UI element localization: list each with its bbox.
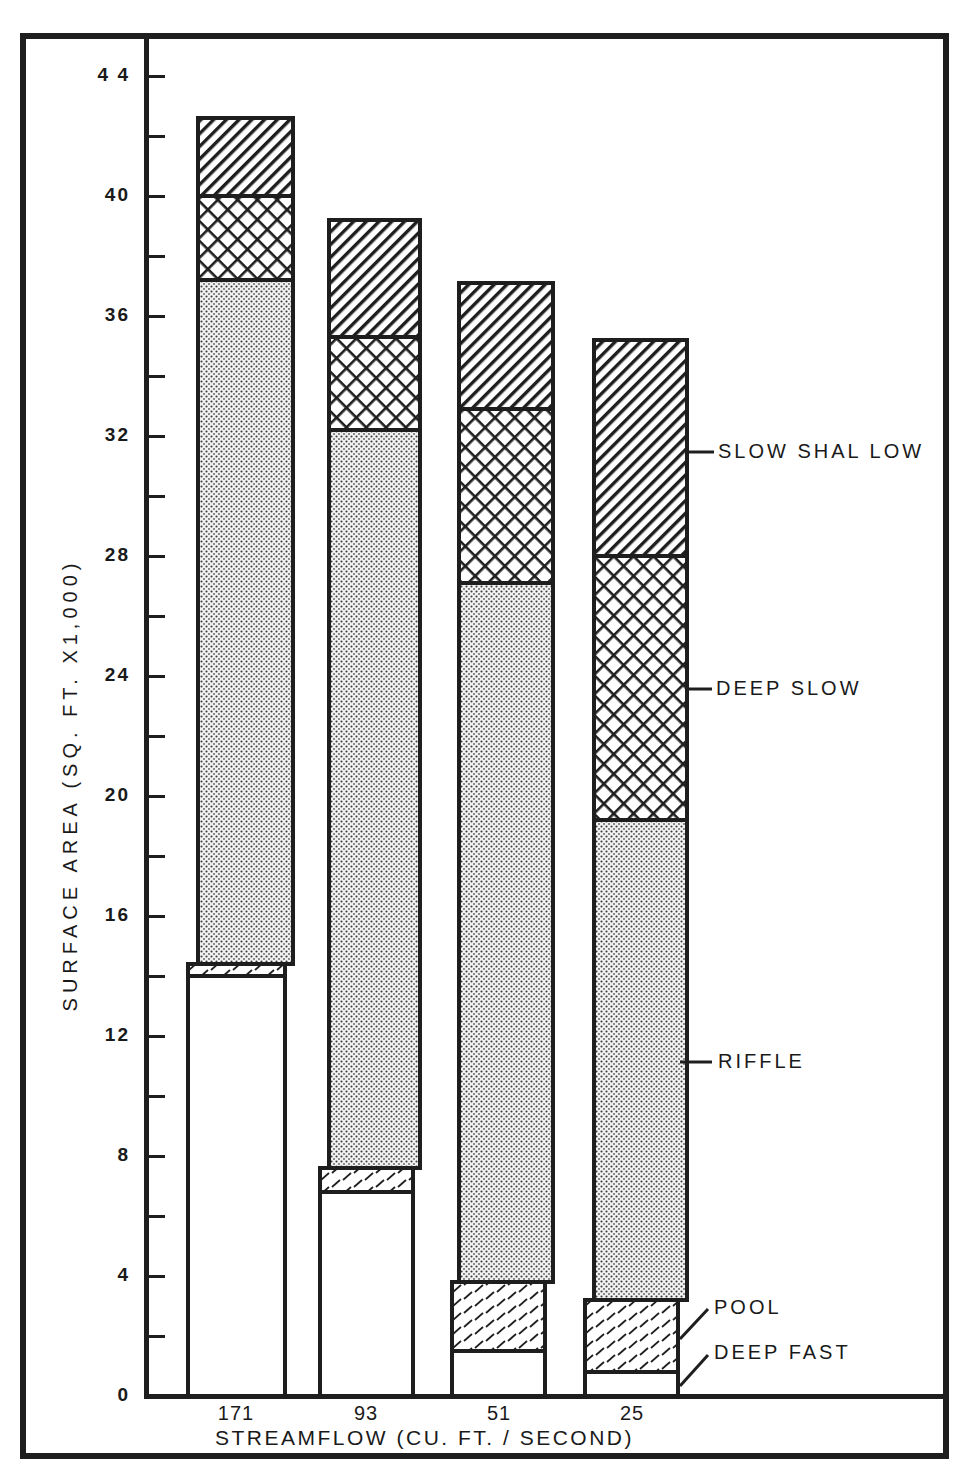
bar-stack-171 [188,118,293,1396]
stacked-bars [0,0,972,1481]
bar-stack-51 [452,283,553,1396]
x-tick-label: 171 [206,1402,266,1425]
legend-slow-shallow: SLOW SHAL LOW [718,440,924,463]
legend-deep-slow: DEEP SLOW [716,677,862,700]
bar-segment-riffle [198,280,293,964]
legend-deep-fast: DEEP FAST [714,1341,851,1364]
bar-stack-25 [585,340,687,1396]
bar-segment-riffle [594,820,687,1300]
x-tick-label: 51 [469,1402,529,1425]
bar-segment-slow-shallow [198,118,293,196]
bar-segment-riffle [329,430,420,1168]
legend-leader-line [680,1355,708,1386]
bar-segment-pool [585,1300,678,1372]
bar-segment-deep-fast [320,1192,413,1396]
bar-segment-pool [452,1282,545,1351]
x-axis-title: STREAMFLOW (CU. FT. / SECOND) [215,1426,634,1450]
legend-leader-line [680,1309,708,1339]
bar-segment-deep-fast [188,976,285,1396]
bar-segment-deep-fast [585,1372,678,1396]
bar-segment-slow-shallow [459,283,553,409]
bar-segment-riffle [459,583,553,1282]
bar-segment-deep-fast [452,1351,545,1396]
bar-segment-deep-slow [329,337,420,430]
bar-segment-slow-shallow [594,340,687,556]
bar-segment-deep-slow [459,409,553,583]
legend-riffle: RIFFLE [718,1050,805,1073]
bar-segment-slow-shallow [329,220,420,337]
x-tick-label: 25 [602,1402,662,1425]
bar-segment-pool [320,1168,413,1192]
bar-stack-93 [320,220,420,1396]
bar-segment-deep-slow [198,196,293,280]
bar-segment-deep-slow [594,556,687,820]
x-tick-label: 93 [336,1402,396,1425]
legend-pool: POOL [714,1296,782,1319]
